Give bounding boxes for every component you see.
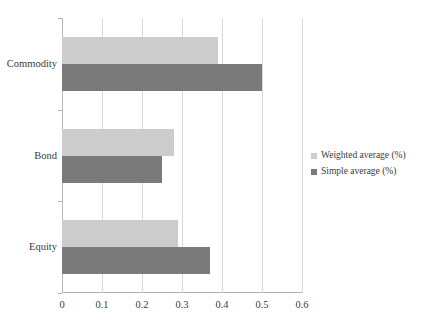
x-tick-label: 0.6	[282, 299, 322, 311]
category-label-equity: Equity	[29, 241, 57, 253]
plot-area	[62, 18, 302, 293]
bar-commodity-weighted	[62, 37, 218, 64]
gridline-x-0.5	[262, 18, 263, 293]
legend-swatch-icon	[311, 153, 317, 159]
x-tick-label: 0.5	[242, 299, 282, 311]
bar-equity-weighted	[62, 220, 178, 247]
category-label-bond: Bond	[34, 150, 57, 162]
bar-commodity-simple	[62, 64, 262, 91]
x-tick-label: 0.3	[162, 299, 202, 311]
bar-bond-weighted	[62, 129, 174, 156]
gridline-x-0.6	[302, 18, 303, 293]
y-axis-tick	[58, 201, 62, 202]
legend-item-weighted-average[interactable]: Weighted average (%)	[311, 150, 406, 161]
category-label-commodity: Commodity	[7, 58, 57, 70]
x-tick-label: 0.4	[202, 299, 242, 311]
y-axis-tick	[58, 293, 62, 294]
y-axis-tick	[58, 110, 62, 111]
chart-legend: Weighted average (%)Simple average (%)	[311, 150, 406, 182]
bar-bond-simple	[62, 156, 162, 183]
legend-label: Simple average (%)	[321, 166, 396, 177]
x-tick-label: 0	[42, 299, 82, 311]
bar-equity-simple	[62, 247, 210, 274]
gridline-x-0.4	[222, 18, 223, 293]
chart-figure: CommodityBondEquity 00.10.20.30.40.50.6 …	[0, 0, 430, 327]
x-tick-label: 0.1	[82, 299, 122, 311]
legend-swatch-icon	[311, 169, 317, 175]
legend-label: Weighted average (%)	[321, 150, 406, 161]
x-tick-label: 0.2	[122, 299, 162, 311]
y-axis-tick	[58, 18, 62, 19]
legend-item-simple-average[interactable]: Simple average (%)	[311, 166, 406, 177]
